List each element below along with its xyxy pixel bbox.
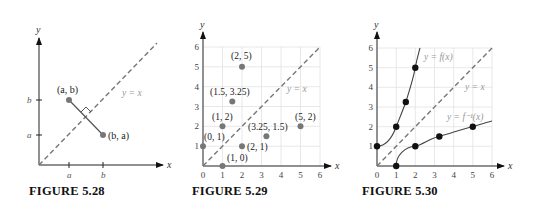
x-tick-labels: 0 1 2 3 4 5 6 bbox=[375, 170, 495, 180]
label-b-a: (b, a) bbox=[108, 130, 129, 142]
svg-text:5: 5 bbox=[369, 63, 374, 73]
y-axis-label: y bbox=[373, 19, 379, 30]
svg-text:1: 1 bbox=[394, 170, 399, 180]
x-axis-label: x bbox=[334, 160, 340, 171]
point-b-a bbox=[100, 132, 106, 138]
svg-text:2: 2 bbox=[240, 170, 245, 180]
figure-5-28: y x a b b a y = x (a, b) (b, a) bbox=[27, 24, 172, 180]
reflection-segment bbox=[69, 100, 103, 135]
figure-5-29: y x 0 1 2 3 4 5 6 1 2 3 4 5 6 y = x bbox=[195, 19, 341, 180]
figure-caption-5-29: FIGURE 5.29 bbox=[192, 184, 268, 199]
svg-text:6: 6 bbox=[195, 42, 200, 52]
y-tick-b: b bbox=[27, 95, 32, 105]
svg-text:5: 5 bbox=[471, 170, 476, 180]
x-tick-a: a bbox=[67, 170, 72, 180]
f-curve bbox=[377, 48, 420, 146]
svg-text:6: 6 bbox=[318, 170, 323, 180]
svg-text:(1.5, 3.25): (1.5, 3.25) bbox=[210, 87, 250, 98]
svg-text:0: 0 bbox=[201, 170, 206, 180]
svg-text:3: 3 bbox=[259, 170, 264, 180]
svg-text:(1, 0): (1, 0) bbox=[227, 153, 248, 164]
svg-text:3: 3 bbox=[195, 102, 200, 112]
x-tick-labels: 0 1 2 3 4 5 6 bbox=[201, 170, 323, 180]
right-angle-marker bbox=[81, 107, 91, 112]
figure-caption-5-28: FIGURE 5.28 bbox=[29, 184, 105, 199]
svg-text:1: 1 bbox=[220, 170, 225, 180]
figure-caption-5-30: FIGURE 5.30 bbox=[362, 184, 438, 199]
y-tick-labels: 1 2 3 4 5 6 bbox=[369, 43, 374, 151]
svg-text:(2, 5): (2, 5) bbox=[231, 51, 252, 62]
identity-line bbox=[39, 43, 157, 165]
svg-text:2: 2 bbox=[369, 122, 374, 132]
svg-text:1: 1 bbox=[369, 141, 374, 151]
svg-text:(5, 2): (5, 2) bbox=[295, 112, 316, 123]
svg-text:5: 5 bbox=[298, 170, 303, 180]
y-tick-labels: 1 2 3 4 5 6 bbox=[195, 42, 200, 151]
svg-text:2: 2 bbox=[413, 170, 418, 180]
svg-text:5: 5 bbox=[195, 62, 200, 72]
svg-text:1: 1 bbox=[195, 141, 200, 151]
x-axis-label: x bbox=[166, 159, 172, 170]
svg-text:4: 4 bbox=[195, 82, 200, 92]
identity-label: y = x bbox=[464, 82, 485, 92]
y-axis-label: y bbox=[35, 24, 41, 35]
f-label: y = f(x) bbox=[423, 52, 453, 63]
svg-text:3: 3 bbox=[432, 170, 437, 180]
svg-text:(3.25, 1.5): (3.25, 1.5) bbox=[248, 122, 288, 133]
y-axis-label: y bbox=[199, 19, 205, 30]
svg-text:4: 4 bbox=[451, 170, 456, 180]
label-a-b: (a, b) bbox=[57, 84, 78, 96]
svg-text:3: 3 bbox=[369, 102, 374, 112]
figure-5-30: y x 0 1 2 3 4 5 6 1 2 3 4 5 6 bbox=[369, 19, 514, 180]
svg-text:6: 6 bbox=[490, 170, 495, 180]
x-tick-b: b bbox=[101, 170, 106, 180]
identity-label: y = x bbox=[121, 88, 142, 98]
svg-text:(2, 1): (2, 1) bbox=[247, 142, 268, 153]
svg-text:4: 4 bbox=[369, 82, 374, 92]
svg-text:0: 0 bbox=[375, 170, 380, 180]
point-a-b bbox=[66, 97, 72, 103]
svg-text:6: 6 bbox=[369, 43, 374, 53]
f-inverse-label: y = f⁻¹(x) bbox=[446, 112, 483, 123]
x-axis-label: x bbox=[507, 160, 513, 171]
svg-text:(1, 2): (1, 2) bbox=[212, 112, 233, 123]
y-tick-a: a bbox=[27, 130, 32, 140]
identity-label: y = x bbox=[286, 84, 307, 94]
f-inverse-curve bbox=[396, 121, 492, 166]
svg-text:4: 4 bbox=[279, 170, 284, 180]
svg-text:2: 2 bbox=[195, 121, 200, 131]
svg-text:(0, 1): (0, 1) bbox=[204, 132, 225, 143]
